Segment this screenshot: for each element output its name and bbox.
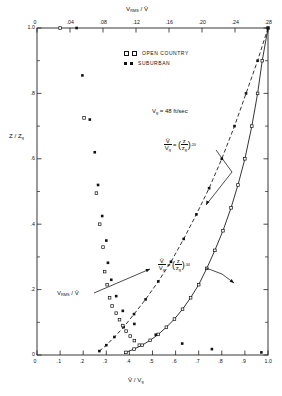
bottom-tick-label: .6 bbox=[172, 359, 177, 364]
legend-item-suburban: SUBURBAN bbox=[124, 60, 189, 66]
data-point-marker bbox=[101, 215, 104, 218]
data-point-marker bbox=[95, 192, 98, 195]
top-tick-label: .16 bbox=[166, 20, 174, 25]
data-point-marker bbox=[195, 213, 198, 216]
data-point-marker bbox=[165, 326, 168, 329]
left-tick-label: .4 bbox=[26, 222, 35, 227]
data-point-marker bbox=[110, 278, 113, 281]
data-point-marker bbox=[208, 187, 211, 190]
top-tick-label: .24 bbox=[232, 20, 240, 25]
top-tick-label: .12 bbox=[133, 20, 141, 25]
data-point-marker bbox=[115, 295, 118, 298]
data-point-marker bbox=[125, 351, 128, 354]
equation-lhs-fraction: V̄ Vg bbox=[158, 258, 166, 272]
data-point-marker bbox=[244, 158, 247, 161]
arrowhead-rms-label bbox=[146, 269, 151, 272]
data-point-marker bbox=[182, 238, 185, 241]
data-series-layer bbox=[59, 27, 270, 354]
open-country-equation: V̄ Vg = ( z zg ) .20 bbox=[164, 138, 196, 152]
data-point-marker bbox=[129, 335, 132, 338]
data-point-marker bbox=[133, 339, 136, 342]
data-point-marker bbox=[133, 313, 136, 316]
bottom-tick-label: .4 bbox=[126, 359, 131, 364]
leader-rms-label bbox=[94, 269, 150, 293]
data-point-marker bbox=[173, 318, 176, 321]
bottom-tick-label: .8 bbox=[218, 359, 223, 364]
bottom-tick-label: .5 bbox=[149, 359, 154, 364]
bottom-tick-label: .9 bbox=[241, 359, 246, 364]
axes-layer bbox=[37, 28, 268, 355]
data-point-marker bbox=[111, 305, 114, 308]
rms-arrow-label: VRMS / V̄ bbox=[57, 290, 79, 297]
series-line-mean-velocity-1 bbox=[99, 28, 268, 351]
equation-lhs-fraction: V̄ Vg bbox=[164, 138, 172, 152]
equals-sign: = bbox=[167, 262, 171, 268]
lhs-denominator: Vg bbox=[158, 265, 166, 272]
data-point-marker bbox=[115, 312, 118, 315]
equals-sign: = bbox=[173, 142, 177, 148]
lhs-numerator: V̄ bbox=[158, 258, 166, 265]
data-point-marker bbox=[75, 27, 78, 30]
data-point-marker bbox=[157, 280, 160, 283]
data-point-marker bbox=[141, 344, 144, 347]
left-tick-label: .8 bbox=[26, 91, 35, 96]
legend-label-open-country: OPEN COUNTRY bbox=[142, 50, 189, 56]
figure-canvas: VRMS / V̄ V̄ / Vg Z / Zg OPEN COUNTRY SU… bbox=[0, 0, 282, 396]
lhs-denominator: Vg bbox=[164, 145, 172, 152]
data-point-marker bbox=[113, 336, 116, 339]
data-point-marker bbox=[245, 92, 248, 95]
bottom-tick-label: 1.0 bbox=[265, 359, 273, 364]
bottom-tick-label: .2 bbox=[80, 359, 85, 364]
data-point-marker bbox=[133, 348, 136, 351]
top-tick-label: .04 bbox=[67, 20, 75, 25]
bottom-tick-label: 0 bbox=[34, 359, 37, 364]
data-point-marker bbox=[214, 249, 217, 252]
data-point-marker bbox=[261, 59, 264, 62]
data-point-marker bbox=[197, 283, 200, 286]
suburban-exponent: .34 bbox=[185, 263, 190, 267]
left-tick-label: .2 bbox=[26, 287, 35, 292]
bottom-axis-title: V̄ / Vg bbox=[128, 377, 144, 384]
series-line-mean-velocity-0 bbox=[126, 28, 268, 352]
bottom-tick-label: .1 bbox=[57, 359, 62, 364]
data-point-marker bbox=[103, 270, 106, 273]
data-point-marker bbox=[181, 308, 184, 311]
data-point-marker bbox=[149, 339, 152, 342]
bottom-tick-label: .3 bbox=[103, 359, 108, 364]
legend-label-suburban: SUBURBAN bbox=[138, 60, 170, 66]
data-point-marker bbox=[122, 310, 125, 313]
data-point-marker bbox=[157, 333, 160, 336]
data-point-marker bbox=[93, 151, 96, 154]
left-axis-title: Z / Zg bbox=[9, 133, 24, 140]
left-tick-label: 0 bbox=[26, 352, 35, 357]
top-tick-label: .20 bbox=[199, 20, 207, 25]
data-point-marker bbox=[181, 342, 184, 345]
data-point-marker bbox=[222, 229, 225, 232]
suburban-equation: V̄ Vg = ( z zg ) .34 bbox=[158, 258, 190, 272]
data-point-marker bbox=[105, 239, 108, 242]
top-tick-label: .08 bbox=[100, 20, 108, 25]
data-point-marker bbox=[118, 318, 121, 321]
data-point-marker bbox=[251, 125, 254, 128]
data-point-marker bbox=[107, 261, 110, 264]
top-tick-label: .28 bbox=[265, 20, 273, 25]
data-point-marker bbox=[138, 344, 141, 347]
data-point-marker bbox=[122, 324, 125, 327]
data-point-marker bbox=[59, 27, 62, 30]
data-point-marker bbox=[233, 125, 236, 128]
data-point-marker bbox=[106, 283, 109, 286]
data-point-marker bbox=[108, 296, 111, 299]
data-point-marker bbox=[98, 223, 101, 226]
data-point-marker bbox=[155, 333, 158, 336]
legend: OPEN COUNTRY SUBURBAN bbox=[124, 50, 189, 66]
data-point-marker bbox=[98, 350, 101, 353]
data-point-marker bbox=[237, 184, 240, 187]
data-point-marker bbox=[125, 330, 128, 333]
open-square-icon bbox=[132, 51, 137, 56]
gradient-velocity-note: Vg = 48 ft/sec bbox=[152, 108, 188, 115]
data-point-marker bbox=[230, 207, 233, 210]
data-point-marker bbox=[83, 117, 86, 120]
data-point-marker bbox=[133, 323, 136, 326]
lhs-numerator: V̄ bbox=[164, 138, 172, 145]
data-point-marker bbox=[256, 59, 259, 62]
